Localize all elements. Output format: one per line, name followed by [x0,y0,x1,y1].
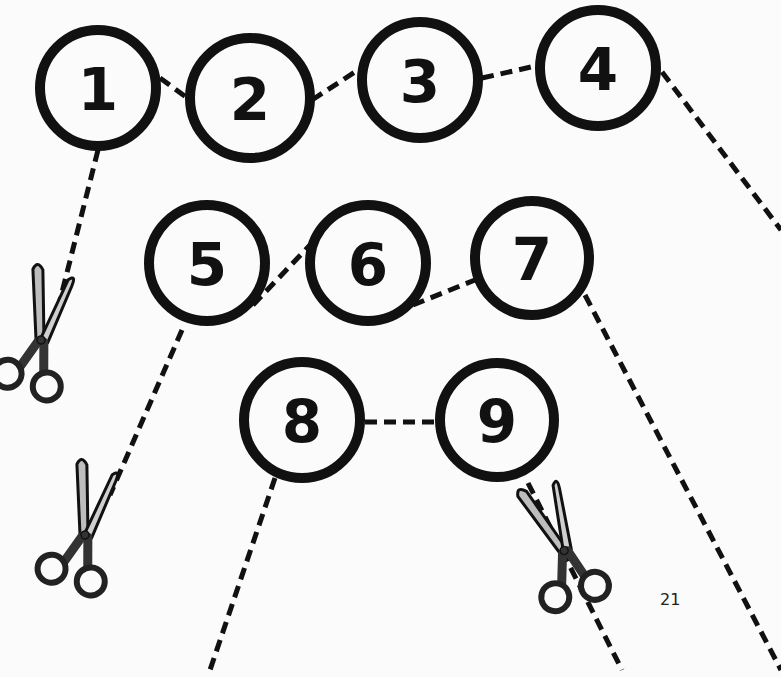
number-circle-2: 2 [190,38,310,158]
number-circle-8: 8 [244,362,360,478]
number-circle-3: 3 [362,22,478,138]
page-number: 21 [660,590,680,609]
circle-label: 5 [187,231,227,299]
number-circle-4: 4 [540,10,656,126]
circle-label: 7 [512,226,552,294]
number-circle-1: 1 [40,30,156,146]
dashed-cut-lines [55,65,781,670]
circle-label: 3 [400,48,440,116]
circle-label: 8 [282,388,322,456]
number-circle-5: 5 [149,205,265,321]
number-circle-7: 7 [475,201,589,315]
circle-label: 6 [348,231,388,299]
circle-label: 9 [477,388,517,456]
worksheet-page: 1 2 3 4 5 6 7 8 [0,0,781,677]
cut-line-worksheet: 1 2 3 4 5 6 7 8 [0,0,781,677]
circle-label: 4 [578,36,618,104]
number-circle-6: 6 [310,205,426,321]
scissors-icon [36,457,119,597]
number-circle-9: 9 [440,363,554,477]
circle-label: 1 [78,56,118,124]
circle-label: 2 [230,66,270,134]
scissors-icon [488,471,619,625]
